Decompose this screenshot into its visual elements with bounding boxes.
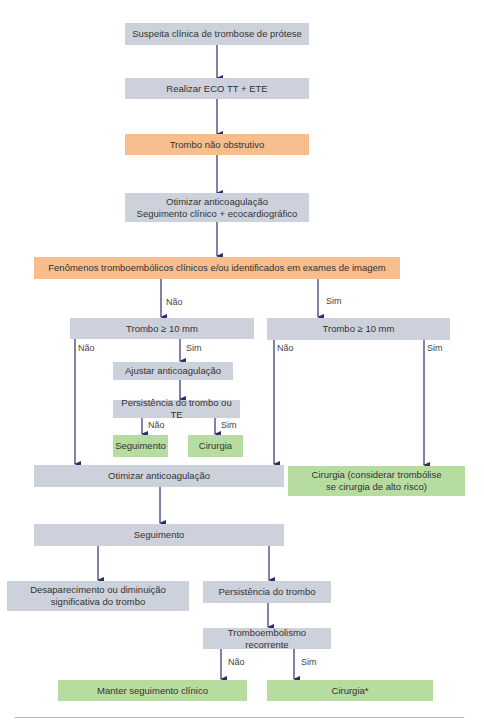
node-thrombus-persistence: Persistência do trombo xyxy=(203,581,331,603)
node-label: Trombo ≥ 10 mm xyxy=(126,323,198,335)
node-maintain-clinical-followup: Manter seguimento clínico xyxy=(58,680,247,701)
edge-label-no: Não xyxy=(228,657,245,667)
node-label: Trombo ≥ 10 mm xyxy=(323,323,395,335)
node-label: Persistência do trombo ou TE xyxy=(116,397,237,421)
node-label: Manter seguimento clínico xyxy=(97,685,208,697)
node-optimize-anticoag-followup: Otimizar anticoagulação Seguimento clíni… xyxy=(125,193,309,222)
edge-label-no: Não xyxy=(277,343,294,353)
node-label: Realizar ECO TT + ETE xyxy=(166,83,267,95)
node-label: Tromboembolismo recorrente xyxy=(206,627,328,651)
node-thrombus-10mm-left: Trombo ≥ 10 mm xyxy=(70,318,254,339)
node-label: Desaparecimento ou diminuição significat… xyxy=(30,584,166,608)
bottom-divider xyxy=(15,717,464,718)
node-label: Suspeita clínica de trombose de prótese xyxy=(132,28,302,40)
node-label: Persistência do trombo xyxy=(218,586,315,598)
node-label: Otimizar anticoagulação xyxy=(108,470,210,482)
node-label: Cirurgia* xyxy=(332,685,369,697)
node-adjust-anticoag: Ajustar anticoagulação xyxy=(113,362,233,380)
node-followup: Seguimento xyxy=(34,524,284,546)
edge-label-yes: Sim xyxy=(301,657,317,667)
edge-label-yes: Sim xyxy=(427,343,443,353)
node-label: Cirurgia (considerar trombólise se cirur… xyxy=(312,469,442,493)
node-echo-tt-te: Realizar ECO TT + ETE xyxy=(125,78,309,99)
node-thrombus-resolution: Desaparecimento ou diminuição significat… xyxy=(7,581,189,611)
node-label: Fenômenos tromboembólicos clínicos e/ou … xyxy=(48,262,385,274)
edge-label-yes: Sim xyxy=(221,420,237,430)
node-label: Seguimento xyxy=(134,529,185,541)
node-label: Ajustar anticoagulação xyxy=(125,365,221,377)
node-thromboembolic-events: Fenômenos tromboembólicos clínicos e/ou … xyxy=(34,257,400,279)
edge-label-no: Não xyxy=(78,343,95,353)
node-surgery-final: Cirurgia* xyxy=(267,680,433,701)
node-suspected-thrombosis: Suspeita clínica de trombose de prótese xyxy=(125,23,309,45)
node-label: Seguimento xyxy=(115,440,166,452)
node-surgery-small: Cirurgia xyxy=(188,435,243,457)
edge-label-no: Não xyxy=(166,297,183,307)
node-surgery-consider-thrombolysis: Cirurgia (considerar trombólise se cirur… xyxy=(288,466,465,496)
node-recurrent-thromboembolism: Tromboembolismo recorrente xyxy=(203,628,331,649)
node-thrombus-10mm-right: Trombo ≥ 10 mm xyxy=(267,318,450,340)
edge-label-yes: Sim xyxy=(326,296,342,306)
node-non-obstructive-thrombus: Trombo não obstrutivo xyxy=(125,134,309,155)
node-followup-small: Seguimento xyxy=(113,435,168,457)
node-optimize-anticoag: Otimizar anticoagulação xyxy=(34,465,284,487)
node-label: Trombo não obstrutivo xyxy=(170,139,265,151)
edge-label-yes: Sim xyxy=(186,343,202,353)
node-thrombus-or-te-persistence: Persistência do trombo ou TE xyxy=(113,400,240,418)
node-label: Cirurgia xyxy=(199,440,232,452)
connector-arrows xyxy=(0,0,484,724)
node-label: Otimizar anticoagulação Seguimento clíni… xyxy=(137,196,298,220)
edge-label-no: Não xyxy=(148,420,165,430)
